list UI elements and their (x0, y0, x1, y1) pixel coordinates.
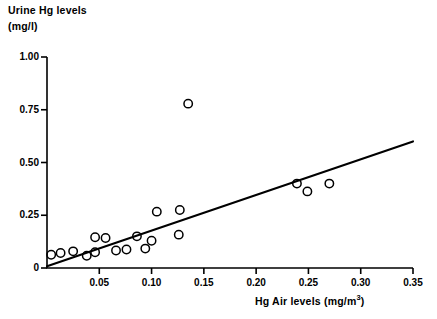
data-point (175, 230, 183, 238)
y-tick-label-1: 0.25 (5, 209, 39, 220)
x-tick-label-2: 0.10 (132, 277, 172, 288)
data-point (325, 179, 333, 187)
data-point (47, 251, 55, 259)
data-point (147, 237, 155, 245)
data-point (141, 244, 149, 252)
x-tick-label-6: 0.30 (341, 277, 381, 288)
x-tick-label-4: 0.20 (236, 277, 276, 288)
data-point (176, 206, 184, 214)
data-points (47, 99, 334, 260)
y-tick-label-0: 0 (5, 262, 39, 273)
x-tick-label-7: 0.35 (393, 277, 433, 288)
data-point (69, 247, 77, 255)
plot-area (0, 0, 437, 319)
data-point (184, 99, 192, 107)
data-point (56, 249, 64, 257)
data-point (122, 245, 130, 253)
y-tick-label-4: 1.00 (5, 51, 39, 62)
regression-line-path (47, 141, 413, 266)
data-point (112, 246, 120, 254)
data-point (303, 187, 311, 195)
y-tick-label-3: 0.75 (5, 104, 39, 115)
chart-container: Urine Hg levels (mg/l) Hg Air levels (mg… (0, 0, 437, 319)
x-tick-label-3: 0.15 (184, 277, 224, 288)
data-point (153, 207, 161, 215)
x-tick-label-1: 0.05 (79, 277, 119, 288)
regression-line (47, 141, 413, 266)
y-tick-label-2: 0.50 (5, 157, 39, 168)
x-tick-label-5: 0.25 (288, 277, 328, 288)
data-point (91, 233, 99, 241)
data-point (101, 234, 109, 242)
